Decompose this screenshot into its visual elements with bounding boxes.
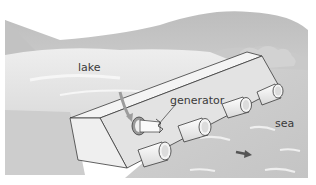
label-sea: sea: [275, 118, 294, 129]
tidal-barrage-diagram: lake generator sea: [0, 0, 316, 185]
label-lake: lake: [78, 62, 101, 73]
label-generator: generator: [170, 95, 224, 106]
diagram-canvas: [0, 0, 316, 185]
